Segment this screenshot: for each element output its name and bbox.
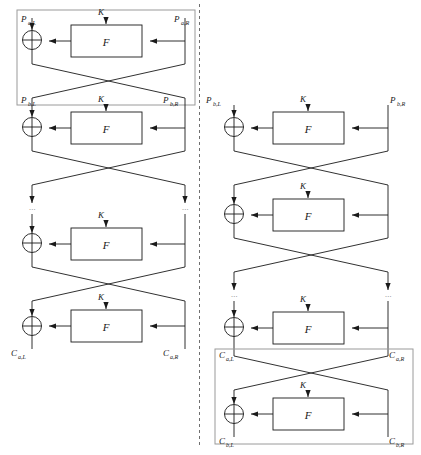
svg-text:b,R: b,R [170,101,179,107]
f-label-right-1: F [304,123,312,135]
label-left-input-top-right: P a,R [173,14,190,26]
f-label-left-2: F [102,123,110,135]
left-round1-highlight-frame [17,10,195,105]
f-label-right-4: F [304,409,312,421]
svg-text:a,R: a,R [170,354,179,360]
ellipsis-left-r: ··· [182,204,189,214]
label-right-input-top-left: P b,L [205,95,222,107]
svg-text:b,L: b,L [28,101,37,107]
svg-text:b,L: b,L [226,442,235,448]
svg-text:a,L: a,L [18,354,27,360]
key-label-right-3: K [299,294,307,304]
svg-text:P: P [20,14,27,24]
svg-text:a,L: a,L [226,356,235,362]
svg-text:C: C [389,436,396,446]
key-label-right-2: K [299,181,307,191]
label-left-input-top-left: P a,L [20,14,37,26]
svg-text:a,L: a,L [28,20,37,26]
label-right-input-top-right: P b,R [389,95,406,107]
svg-text:b,L: b,L [213,101,222,107]
ellipsis-left-l: ··· [29,204,36,214]
svg-text:P: P [205,95,212,105]
feistel-diagram-svg: F F F F F F F F K K K K K K K K P a,L P … [0,0,421,455]
svg-text:C: C [219,436,226,446]
svg-text:C: C [219,350,226,360]
label-right-output-bottom-right: C b,R [389,436,405,448]
svg-text:P: P [389,95,396,105]
key-label-left-1: K [97,7,105,17]
f-label-left-4: F [102,321,110,333]
f-label-left-1: F [102,36,110,48]
svg-text:C: C [11,348,18,358]
label-right-input-mid-right: C a,R [389,350,405,362]
f-label-right-3: F [304,323,312,335]
svg-text:a,R: a,R [181,20,190,26]
svg-text:b,R: b,R [396,442,405,448]
svg-text:b,R: b,R [397,101,406,107]
key-label-left-3: K [97,210,105,220]
figure-canvas: F F F F F F F F K K K K K K K K P a,L P … [0,0,421,455]
key-label-right-1: K [299,94,307,104]
label-right-input-mid-left: C a,L [219,350,235,362]
svg-text:a,R: a,R [396,356,405,362]
key-label-left-2: K [97,94,105,104]
svg-text:C: C [389,350,396,360]
key-label-left-4: K [97,292,105,302]
label-right-output-bottom-left: C b,L [219,436,235,448]
key-label-right-4: K [299,380,307,390]
svg-text:C: C [163,348,170,358]
svg-text:P: P [20,95,27,105]
svg-text:P: P [173,14,180,24]
ellipsis-right-l: ··· [231,291,238,301]
svg-text:P: P [162,95,169,105]
label-left-output-bottom-right: C a,R [163,348,179,360]
f-label-left-3: F [102,239,110,251]
label-left-output-bottom-left: C a,L [11,348,27,360]
ellipsis-right-r: ··· [385,291,392,301]
f-label-right-2: F [304,210,312,222]
